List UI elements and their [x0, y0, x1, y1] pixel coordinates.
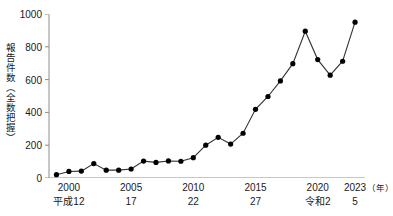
x-tick-label-era: 令和2	[305, 197, 331, 207]
data-point	[265, 94, 270, 99]
y-tick-label: 200	[8, 141, 42, 151]
data-point	[303, 29, 308, 34]
x-tick-label-western: 2015	[244, 183, 266, 193]
x-axis-tick-labels: 2000 平成12 2005 17 2010 22 2015 27 2020 令…	[0, 182, 373, 216]
y-tick-label: 800	[8, 43, 42, 53]
data-point	[104, 168, 109, 173]
data-point	[253, 107, 258, 112]
x-tick-label-western: 2010	[182, 183, 204, 193]
data-point	[278, 78, 283, 83]
data-point	[66, 169, 71, 174]
plot-area	[45, 14, 365, 178]
data-points	[54, 20, 358, 178]
data-point	[79, 169, 84, 174]
x-tick-label-western: 2023	[344, 183, 366, 193]
data-point	[191, 155, 196, 160]
data-line	[56, 22, 355, 175]
x-tick-label-era: 22	[188, 197, 199, 207]
data-point	[91, 161, 96, 166]
y-tick-label: 600	[8, 76, 42, 86]
line-chart-svg	[45, 14, 365, 178]
data-point	[340, 59, 345, 64]
axes	[45, 14, 365, 178]
data-point	[116, 168, 121, 173]
x-tick-label-era: 平成12	[53, 197, 84, 207]
x-axis-unit-label: （年）	[367, 184, 393, 193]
x-tick-label-western: 2020	[307, 183, 329, 193]
data-point	[290, 61, 295, 66]
y-tick-label: 400	[8, 108, 42, 118]
x-tick-label-era: 5	[352, 197, 358, 207]
data-point	[228, 141, 233, 146]
data-point	[54, 172, 59, 177]
data-point	[203, 143, 208, 148]
x-tick-label-western: 2005	[120, 183, 142, 193]
data-point	[315, 57, 320, 62]
data-point	[352, 20, 357, 25]
data-point	[178, 159, 183, 164]
x-tick-label-western: 2000	[58, 183, 80, 193]
x-tick-label-era: 17	[126, 197, 137, 207]
data-point	[216, 135, 221, 140]
data-point	[141, 159, 146, 164]
x-tick-label-era: 27	[250, 197, 261, 207]
data-point	[328, 73, 333, 78]
data-point	[240, 131, 245, 136]
data-point	[129, 166, 134, 171]
y-tick-label: 1000	[8, 10, 42, 20]
data-point	[166, 158, 171, 163]
data-point	[153, 160, 158, 165]
